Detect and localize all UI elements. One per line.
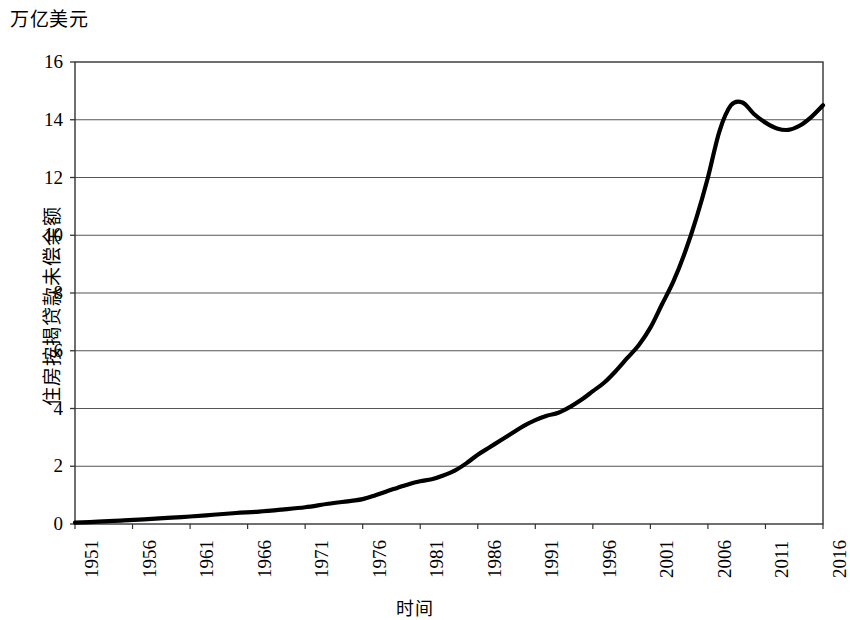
- x-tick-label: 1986: [485, 540, 504, 578]
- y-tick-label: 4: [23, 399, 63, 418]
- y-tick-label: 12: [23, 168, 63, 187]
- x-tick-label: 1996: [600, 540, 619, 578]
- x-tick-label: 1961: [197, 540, 216, 578]
- y-tick-label: 2: [23, 456, 63, 475]
- y-tick-label: 16: [23, 52, 63, 71]
- y-tick-label: 0: [23, 514, 63, 533]
- y-tick-label: 8: [23, 283, 63, 302]
- x-tick-label: 2011: [772, 541, 791, 578]
- x-tick-label: 2006: [715, 540, 734, 578]
- y-tick-label: 14: [23, 110, 63, 129]
- x-tick-label: 1966: [255, 540, 274, 578]
- x-tick-label: 2016: [830, 540, 849, 578]
- x-tick-label: 2001: [657, 540, 676, 578]
- x-tick-label: 1981: [427, 540, 446, 578]
- x-tick-marks: [75, 524, 823, 529]
- x-tick-label: 1951: [82, 540, 101, 578]
- y-tick-label: 6: [23, 341, 63, 360]
- x-tick-label: 1971: [312, 540, 331, 578]
- x-tick-label: 1991: [542, 540, 561, 578]
- x-tick-label: 1956: [140, 540, 159, 578]
- x-tick-label: 1976: [370, 540, 389, 578]
- data-series-line: [75, 101, 823, 522]
- y-tick-label: 10: [23, 225, 63, 244]
